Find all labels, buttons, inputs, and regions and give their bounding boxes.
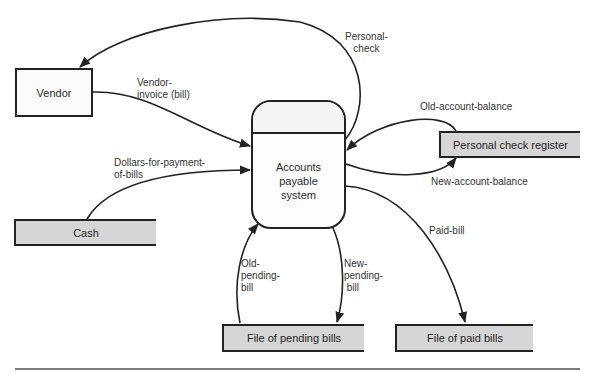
store-pending-bills: File of pending bills — [222, 324, 364, 352]
store-pending-bills-label: File of pending bills — [247, 332, 341, 344]
flow-new-pending-bill-arrow — [333, 228, 343, 322]
flow-paid-bill-arrow — [345, 186, 465, 322]
process-accounts-payable: Accounts payable system — [251, 100, 346, 229]
label-new-pending-bill: New- pending- bill — [344, 258, 383, 294]
process-label-line2: payable — [276, 174, 321, 188]
store-cash: Cash — [14, 219, 156, 246]
store-personal-check-register: Personal check register — [439, 131, 580, 158]
label-dollars: Dollars-for-payment- of-bills — [114, 157, 205, 181]
store-personal-check-register-label: Personal check register — [453, 139, 568, 151]
label-vendor-invoice: Vendor- invoice (bill) — [137, 77, 190, 101]
label-old-pending-bill: Old- pending- bill — [241, 258, 280, 294]
process-header — [253, 102, 344, 134]
label-paid-bill: Paid-bill — [429, 225, 465, 237]
label-personal-check: Personal- check — [345, 31, 388, 55]
bottom-rule — [15, 368, 580, 370]
store-cash-label: Cash — [73, 227, 99, 239]
entity-vendor-label: Vendor — [37, 87, 72, 99]
process-body: Accounts payable system — [253, 134, 344, 228]
process-label-line3: system — [276, 188, 321, 202]
store-paid-bills-label: File of paid bills — [427, 332, 503, 344]
store-paid-bills: File of paid bills — [395, 324, 533, 352]
process-label-line1: Accounts — [276, 160, 321, 174]
flow-new-account-balance-arrow — [346, 158, 456, 175]
entity-vendor: Vendor — [15, 68, 93, 117]
label-old-account-balance: Old-account-balance — [420, 101, 512, 113]
label-new-account-balance: New-account-balance — [431, 176, 528, 188]
